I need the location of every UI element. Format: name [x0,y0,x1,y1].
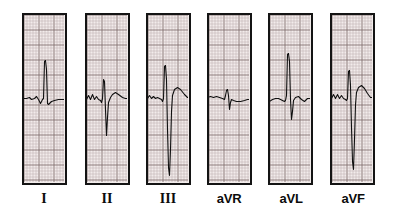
ecg-waveform-avf [332,15,373,183]
ecg-waveform-avl [270,15,311,183]
ecg-figure: IIIIIIaVRaVLaVF [0,0,401,214]
ecg-strip-avr [207,13,252,185]
ecg-strip-avf [330,13,375,185]
ecg-strip-i [22,13,67,185]
ecg-waveform-i [24,15,65,183]
ecg-strip-iii [146,13,191,185]
ecg-waveform-ii [87,15,128,183]
ecg-strip-ii [85,13,130,185]
ecg-waveform-iii [148,15,189,183]
ecg-strip-avl [268,13,313,185]
ecg-waveform-avr [209,15,250,183]
lead-label-avf: aVF [313,192,393,205]
